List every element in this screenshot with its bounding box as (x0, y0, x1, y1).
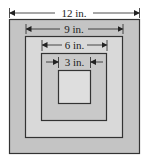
svg-text:6 in.: 6 in. (65, 39, 85, 51)
dimension-12in: 12 in. (10, 7, 140, 19)
square-3in (59, 71, 91, 104)
svg-text:12 in.: 12 in. (61, 7, 86, 19)
svg-text:3 in.: 3 in. (65, 56, 85, 68)
nested-squares-diagram: 12 in. 9 in. 6 in. 3 in. (0, 0, 146, 158)
svg-text:9 in.: 9 in. (64, 23, 84, 35)
